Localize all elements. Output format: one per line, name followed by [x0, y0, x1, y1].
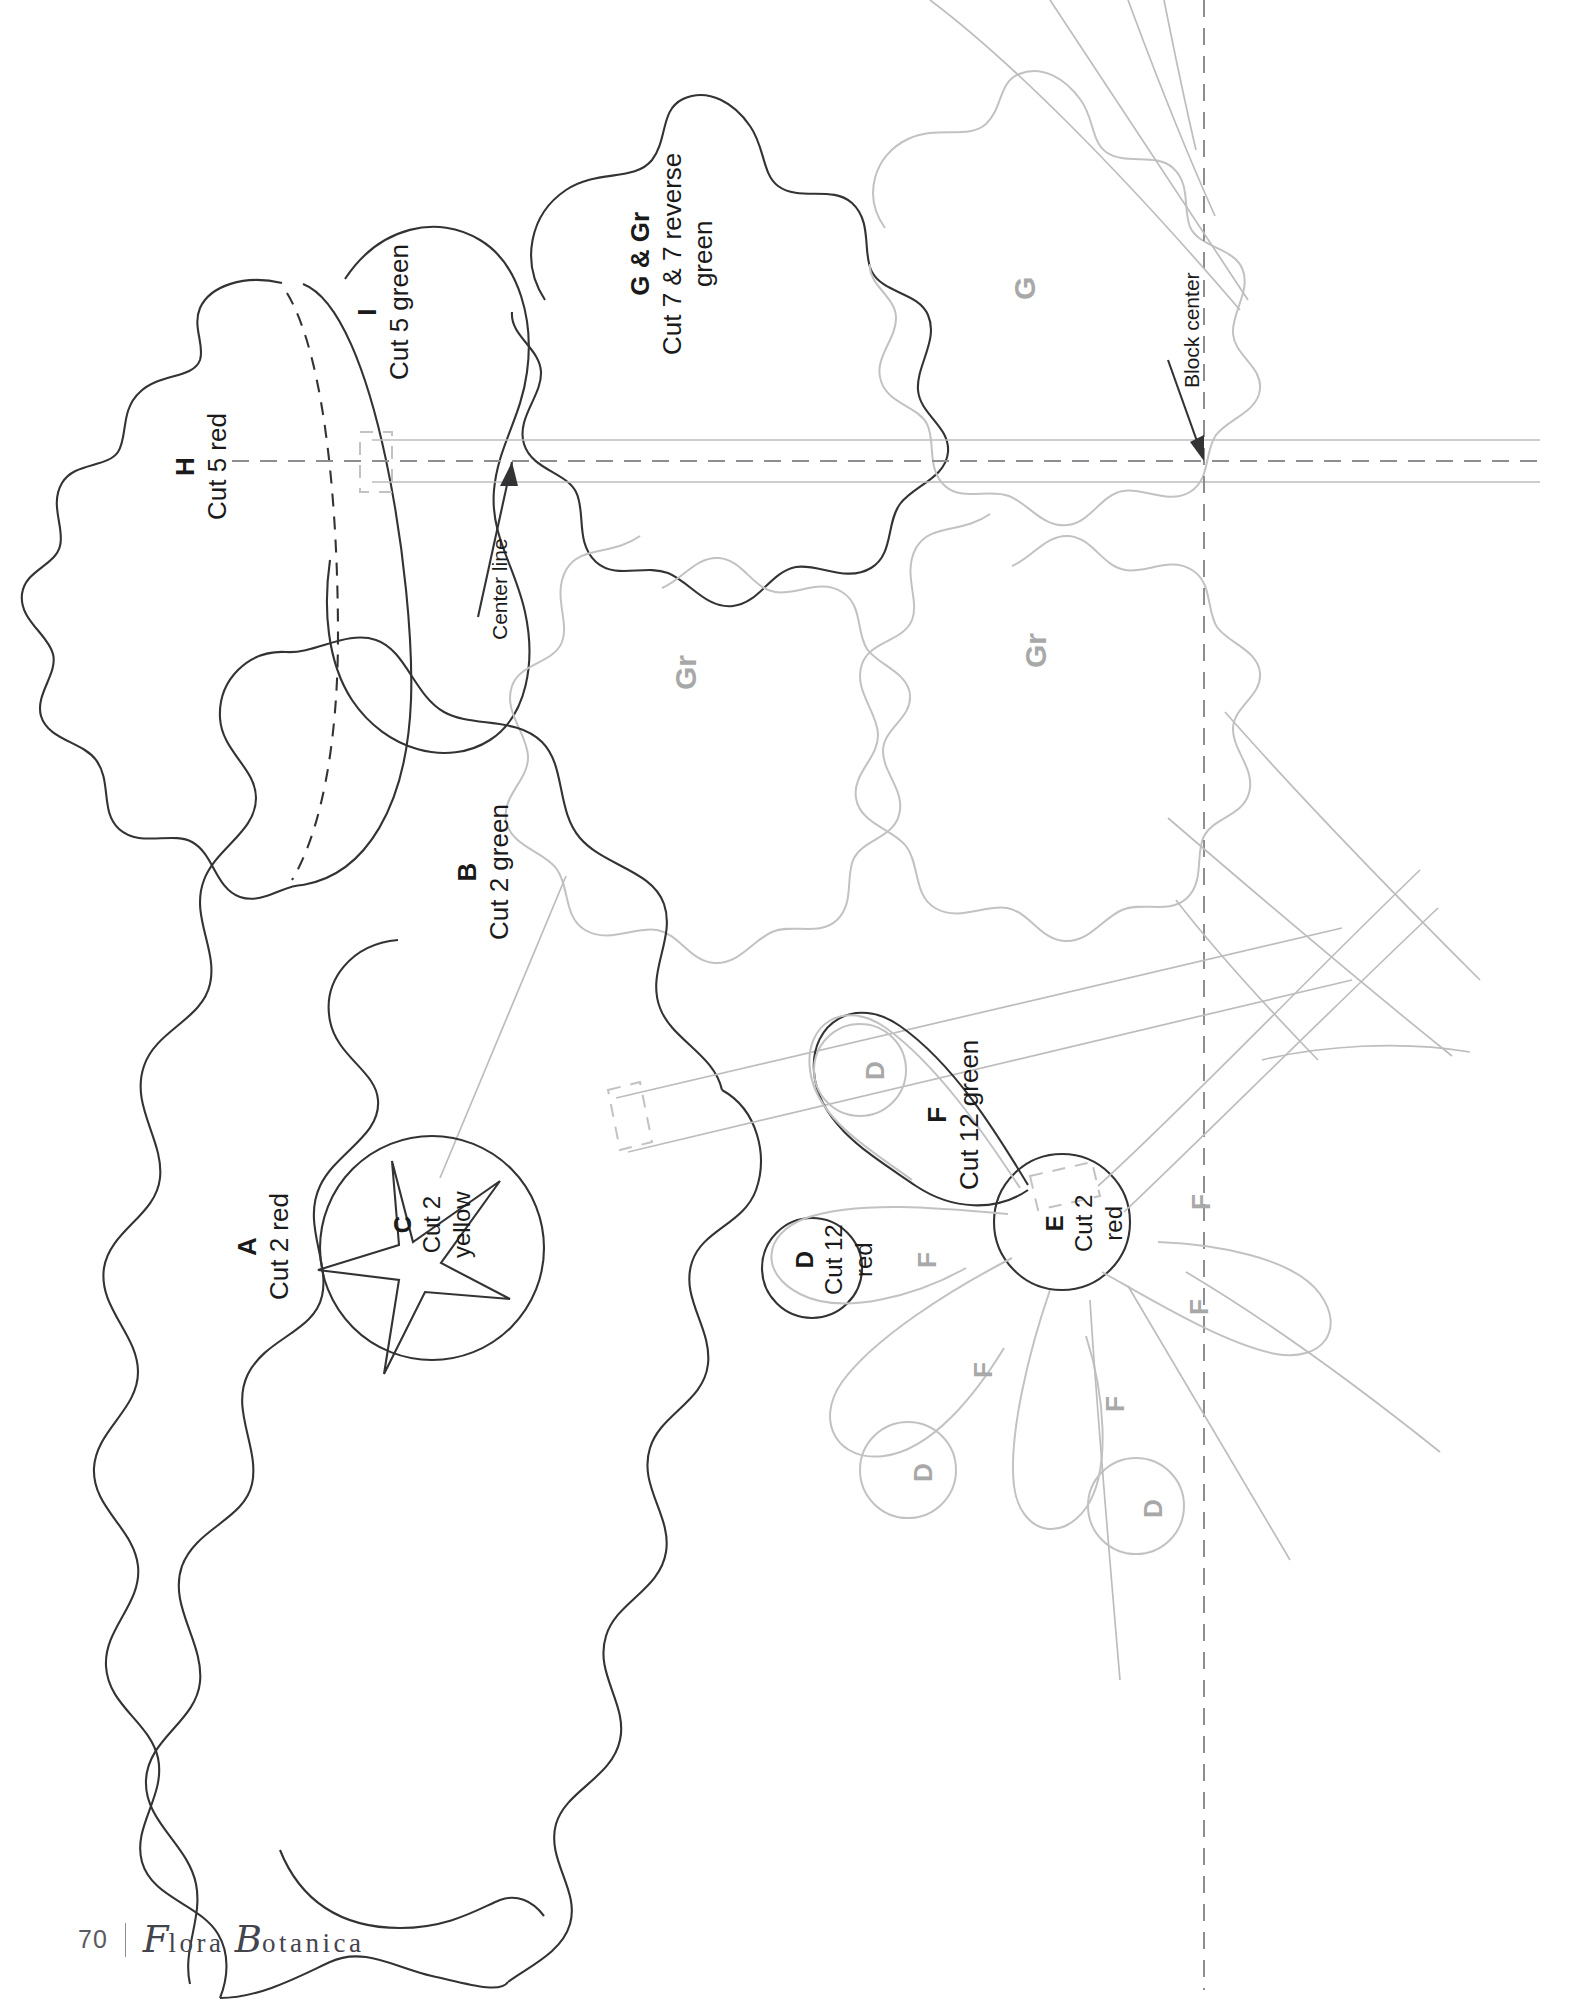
label-piece-A-cut: Cut 2 red: [264, 1193, 296, 1300]
ghost-label-F-5: F: [1184, 1299, 1216, 1315]
label-piece-H: H Cut 5 red: [170, 413, 233, 520]
label-piece-H-code: H: [170, 413, 202, 520]
ghost-label-Gr-left: Gr: [668, 655, 705, 690]
ghost-label-D-3-text: D: [1138, 1499, 1168, 1518]
ghost-label-D-1: D: [860, 1061, 892, 1080]
ghost-label-Gr-left-text: Gr: [669, 655, 702, 690]
ghost-label-F-5-text: F: [1184, 1299, 1214, 1315]
ghost-label-F-2: F: [968, 1362, 1000, 1378]
ghost-label-Gr-right: Gr: [1018, 633, 1055, 668]
ghost-label-Gr-right-text: Gr: [1019, 633, 1052, 668]
construction-lines-bottom-right: [1090, 870, 1470, 1680]
label-piece-C: C Cut 2 yellow: [388, 1191, 476, 1258]
label-piece-G-Gr-cut-line1: Cut 7 & 7 reverse: [657, 153, 689, 355]
ghost-label-F-3-text: F: [1100, 1396, 1130, 1412]
label-piece-G-Gr-code: G & Gr: [625, 153, 657, 355]
ghost-label-F-4-text: F: [1186, 1194, 1216, 1210]
label-piece-B: B Cut 2 green: [452, 804, 515, 940]
ghost-label-G-upper: G: [1007, 277, 1044, 300]
book-title: Flora Botanica: [143, 1918, 365, 1961]
ghost-label-F-2-text: F: [968, 1362, 998, 1378]
label-piece-I-cut: Cut 5 green: [384, 244, 416, 380]
annotation-block-center: Block center: [1180, 272, 1204, 388]
label-piece-G-Gr: G & Gr Cut 7 & 7 reverse green: [625, 153, 720, 355]
label-piece-I: I Cut 5 green: [352, 244, 415, 380]
ghost-label-D-2: D: [908, 1463, 940, 1482]
label-piece-E: E Cut 2 red: [1040, 1195, 1128, 1252]
construction-lines-top-right: [930, 0, 1248, 310]
ghost-label-G-upper-text: G: [1008, 277, 1041, 300]
book-title-initial-b: B: [235, 1918, 262, 1961]
ghost-label-D-3: D: [1138, 1499, 1170, 1518]
ghost-label-F-3: F: [1100, 1396, 1132, 1412]
construction-lines-right-middle: [1168, 712, 1480, 1060]
label-piece-D-code: D: [790, 1224, 819, 1295]
label-piece-E-code: E: [1040, 1195, 1069, 1252]
page-number: 70: [78, 1925, 108, 1954]
ghost-label-F-1: F: [912, 1252, 944, 1268]
label-piece-A-code: A: [232, 1193, 264, 1300]
label-piece-B-cut: Cut 2 green: [484, 804, 516, 940]
pattern-artwork: .dk { fill:none; stroke:#333336; stroke-…: [0, 0, 1585, 2004]
label-piece-C-cut-line2: yellow: [447, 1191, 476, 1258]
ghost-label-F-1-text: F: [912, 1252, 942, 1268]
label-piece-E-cut-line2: red: [1099, 1195, 1128, 1252]
ghost-shape-Gr-right: [856, 514, 1261, 941]
ghost-label-D-2-text: D: [908, 1463, 938, 1482]
label-piece-C-code: C: [388, 1191, 417, 1258]
label-piece-D-cut-line1: Cut 12: [819, 1224, 848, 1295]
piece-shape-H: [22, 280, 303, 899]
piece-shape-F-dark: [814, 1013, 1028, 1206]
ghost-label-D-1-text: D: [860, 1061, 890, 1080]
annotation-center-line: Center line: [488, 538, 512, 640]
label-piece-C-cut-line1: Cut 2: [417, 1191, 446, 1258]
label-piece-E-cut-line1: Cut 2: [1069, 1195, 1098, 1252]
label-piece-I-code: I: [352, 244, 384, 380]
label-piece-F: F Cut 12 green: [922, 1040, 985, 1190]
label-piece-F-code: F: [922, 1040, 954, 1190]
label-piece-A: A Cut 2 red: [232, 1193, 295, 1300]
label-piece-H-cut: Cut 5 red: [202, 413, 234, 520]
piece-shape-A: [94, 638, 761, 1998]
book-title-word1: lora: [169, 1928, 225, 1958]
piece-shape-G: [512, 95, 948, 606]
pattern-page: .dk { fill:none; stroke:#333336; stroke-…: [0, 0, 1585, 2004]
annotation-block-center-text: Block center: [1180, 272, 1203, 388]
label-piece-F-cut: Cut 12 green: [954, 1040, 986, 1190]
book-title-word2: otanica: [262, 1928, 364, 1958]
page-footer: 70 Flora Botanica: [78, 1918, 364, 1961]
footer-divider: [125, 1923, 126, 1957]
annotation-center-line-text: Center line: [488, 538, 511, 640]
label-piece-D: D Cut 12 red: [790, 1224, 878, 1295]
label-piece-G-Gr-cut-line2: green: [688, 153, 720, 355]
label-piece-B-code: B: [452, 804, 484, 940]
label-piece-D-cut-line2: red: [849, 1224, 878, 1295]
book-title-initial-f: F: [143, 1918, 169, 1961]
ghost-label-F-4: F: [1186, 1194, 1218, 1210]
decorative-swoosh: [280, 1850, 544, 1928]
